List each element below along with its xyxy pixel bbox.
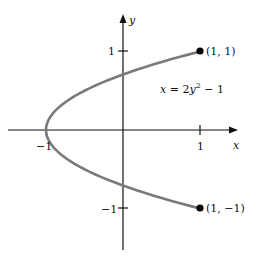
y-axis-label: y: [128, 14, 136, 27]
point-label-1-neg1: (1, −1): [206, 202, 245, 215]
x-tick-label-neg1: −1: [36, 140, 52, 153]
point-1-neg1: [196, 204, 203, 211]
x-tick-label-1: 1: [197, 140, 204, 153]
point-1-1: [196, 47, 203, 54]
y-axis-arrow-icon: [120, 14, 127, 23]
point-label-1-1: (1, 1): [206, 45, 236, 58]
parabola-diagram: y x −1 1 1 −1 (1, 1) (1, −1) x = 2y2 − 1: [0, 0, 256, 258]
x-axis-label: x: [233, 139, 240, 152]
x-axis-arrow-icon: [229, 127, 238, 134]
y-tick-label-neg1: −1: [101, 203, 117, 216]
y-tick-label-1: 1: [108, 45, 115, 58]
equation-label: x = 2y2 − 1: [160, 81, 224, 96]
